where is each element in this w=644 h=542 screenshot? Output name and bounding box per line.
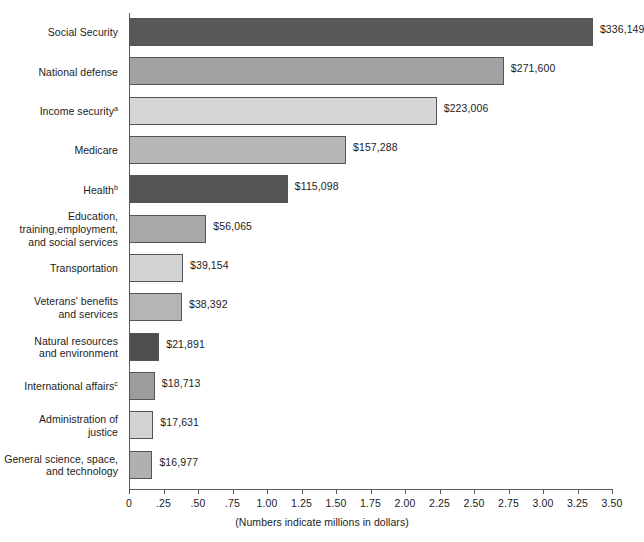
category-label: Social Security [0,26,124,39]
category-label: International affairsc [0,380,124,393]
x-axis-tick [129,489,130,494]
bar-value-label: $336,149 [600,23,644,35]
bar [129,18,593,46]
category-label: National defense [0,66,124,79]
bar-value-label: $223,006 [444,102,489,114]
category-label-line: Social Security [0,26,118,39]
x-axis-tick [371,489,372,494]
bar-value-label: $157,288 [353,141,398,153]
bar [129,136,346,164]
x-axis-tick [612,489,613,494]
category-label-line: International affairsc [0,380,118,393]
x-axis-tick-label: 2.75 [498,497,519,509]
category-label-line: justice [0,426,118,439]
x-axis-tick [336,489,337,494]
bar-row: $16,977 [129,446,612,485]
category-label-line: Veterans' benefits [0,295,118,308]
bar [129,215,206,243]
plot-area: $336,149$271,600$223,006$157,288$115,098… [129,13,612,485]
x-axis-tick [578,489,579,494]
category-label-line: training,employment, [0,223,118,236]
category-label-line: Transportation [0,262,118,275]
x-axis-tick [233,489,234,494]
bar-value-label: $16,977 [159,456,198,468]
category-label-line: Natural resources [0,335,118,348]
footnote-marker: c [114,379,118,388]
bar [129,411,153,439]
x-axis-tick-label: .75 [225,497,240,509]
bar-row: $336,149 [129,13,612,52]
bar-value-label: $271,600 [511,62,556,74]
bar-row: $21,891 [129,328,612,367]
category-label: Education,training,employment,and social… [0,210,124,248]
bar-row: $115,098 [129,170,612,209]
bar-row: $223,006 [129,92,612,131]
bar-chart-figure: Social SecurityNational defenseIncome se… [0,0,644,542]
footnote-marker: b [114,182,118,191]
footnote-marker: a [114,104,118,113]
bar-value-label: $39,154 [190,259,229,271]
bar-value-label: $38,392 [189,298,228,310]
category-label-line: Administration of [0,413,118,426]
category-label-line: Medicare [0,144,118,157]
bar [129,57,504,85]
x-axis-tick [509,489,510,494]
category-label: Natural resourcesand environment [0,335,124,360]
category-label-line: and technology [0,465,118,478]
x-axis-tick-label: 1.25 [291,497,312,509]
x-axis-tick [405,489,406,494]
x-axis-tick [164,489,165,494]
category-label: Medicare [0,144,124,157]
category-label: Healthb [0,184,124,197]
bar [129,451,152,479]
x-axis-tick-label: 0 [126,497,132,509]
bar [129,372,155,400]
x-axis-tick-label: 1.00 [257,497,278,509]
x-axis-tick-label: 2.00 [395,497,416,509]
x-axis-tick [543,489,544,494]
category-label: Administration ofjustice [0,413,124,438]
category-label: Transportation [0,262,124,275]
x-axis-tick-label: 1.75 [360,497,381,509]
bar-row: $56,065 [129,210,612,249]
x-axis-tick [198,489,199,494]
x-axis-tick-label: 2.50 [464,497,485,509]
category-label-line: General science, space, [0,453,118,466]
category-label: General science, space,and technology [0,453,124,478]
x-axis-caption: (Numbers indicate millions in dollars) [0,516,644,528]
bar-value-label: $115,098 [295,180,339,192]
x-axis-tick-label: .50 [191,497,206,509]
category-label: Veterans' benefitsand services [0,295,124,320]
bar-row: $38,392 [129,288,612,327]
bar-row: $271,600 [129,52,612,91]
x-axis-tick-label: 3.25 [567,497,588,509]
category-labels-column: Social SecurityNational defenseIncome se… [0,13,124,485]
x-axis-tick-label: 3.00 [533,497,554,509]
x-axis-tick [440,489,441,494]
x-axis-tick-label: 3.50 [602,497,623,509]
category-label-line: and services [0,308,118,321]
category-label-line: National defense [0,66,118,79]
x-axis-tick-label: .25 [156,497,171,509]
bar-row: $18,713 [129,367,612,406]
bar [129,254,183,282]
category-label-line: and social services [0,236,118,249]
bar-row: $39,154 [129,249,612,288]
x-axis-tick [302,489,303,494]
category-label-line: Education, [0,210,118,223]
x-axis-tick-label: 2.25 [429,497,450,509]
bar [129,97,437,125]
bar-row: $157,288 [129,131,612,170]
x-axis-tick-label: 1.50 [326,497,347,509]
category-label-line: and environment [0,347,118,360]
bar [129,293,182,321]
bar-value-label: $21,891 [166,338,205,350]
x-axis-tick [474,489,475,494]
category-label: Income securitya [0,105,124,118]
x-axis-tick [267,489,268,494]
bar-row: $17,631 [129,406,612,445]
bar [129,333,159,361]
bar [129,175,288,203]
bar-value-label: $18,713 [162,377,201,389]
bar-value-label: $56,065 [213,220,252,232]
